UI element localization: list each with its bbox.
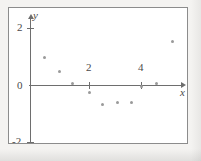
- data-point: [116, 101, 119, 104]
- data-point: [101, 103, 104, 106]
- data-points-layer: [9, 8, 187, 143]
- data-point: [171, 40, 174, 43]
- scatter-plot-frame: 2 4 2 0 -2 x y: [8, 7, 188, 144]
- data-point: [130, 101, 133, 104]
- data-point: [88, 91, 91, 94]
- data-point: [140, 85, 143, 88]
- data-point: [155, 82, 158, 85]
- figure-root: 2 4 2 0 -2 x y: [0, 0, 201, 161]
- data-point: [71, 82, 74, 85]
- data-point: [43, 56, 46, 59]
- data-point: [58, 70, 61, 73]
